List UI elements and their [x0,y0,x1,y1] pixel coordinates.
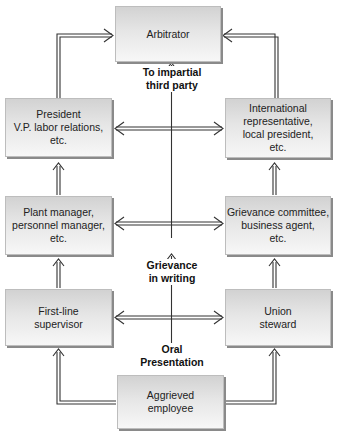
node-first-line-supervisor: First-line supervisor [5,289,112,346]
node-plant-manager: Plant manager, personnel manager, etc. [5,196,112,255]
employee-to-steward-arrow [226,352,276,404]
plant-committee-arrow [115,217,223,230]
node-label: Union steward [260,305,297,331]
node-arbitrator: Arbitrator [115,6,221,62]
supervisor-to-plant-arrow [57,262,60,288]
steward-to-committee-arrow [273,262,276,288]
node-label: Plant manager, personnel manager, etc. [12,206,105,245]
node-label: Grievance committee, business agent, etc… [227,206,329,245]
node-label: International representative, local pres… [243,102,314,154]
node-president: President V.P. labor relations, etc. [5,98,112,157]
employee-to-supervisor-arrow [57,352,116,404]
president-international-arrow [115,122,223,135]
node-union-steward: Union steward [225,289,331,346]
international-to-arbitrator-arrow [224,34,278,98]
node-label: First-line supervisor [34,305,82,331]
node-grievance-committee: Grievance committee, business agent, etc… [225,196,331,255]
node-international-representative: International representative, local pres… [225,98,331,158]
label-oral-presentation: Oral Presentation [128,343,216,369]
node-label: President V.P. labor relations, etc. [14,108,103,147]
node-label: Aggrieved employee [147,389,194,415]
supervisor-steward-arrow [115,311,223,324]
label-grievance-in-writing: Grievance in writing [132,259,212,285]
label-third-party: To impartial third party [128,66,216,92]
plant-to-president-arrow [57,166,60,195]
node-aggrieved-employee: Aggrieved employee [117,375,224,429]
committee-to-international-arrow [273,166,276,195]
president-to-arbitrator-arrow [57,34,112,98]
node-label: Arbitrator [146,28,189,41]
